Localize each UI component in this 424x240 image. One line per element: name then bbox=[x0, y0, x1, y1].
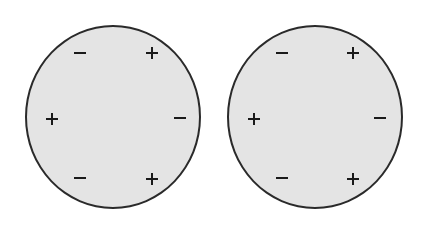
plus-sign-icon bbox=[247, 112, 261, 126]
minus-sign-icon bbox=[275, 171, 289, 185]
minus-sign-icon bbox=[173, 111, 187, 125]
plus-sign-icon bbox=[145, 46, 159, 60]
minus-sign-icon bbox=[73, 171, 87, 185]
plus-sign-icon bbox=[45, 112, 59, 126]
plus-sign-icon bbox=[145, 172, 159, 186]
plus-sign-icon bbox=[346, 46, 360, 60]
plus-sign-icon bbox=[346, 172, 360, 186]
minus-sign-icon bbox=[373, 111, 387, 125]
minus-sign-icon bbox=[275, 46, 289, 60]
minus-sign-icon bbox=[73, 46, 87, 60]
